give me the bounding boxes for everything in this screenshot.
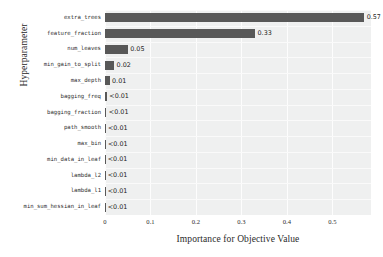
- horizontal-gridline: [105, 136, 371, 137]
- horizontal-gridline: [105, 199, 371, 200]
- y-axis-tick-label: max_depth: [0, 78, 101, 84]
- horizontal-gridline: [105, 57, 371, 58]
- bar: [105, 61, 114, 70]
- y-axis-tick-label: min_gain_to_split: [0, 62, 101, 68]
- horizontal-gridline: [105, 42, 371, 43]
- y-axis-tick-label: num_leaves: [0, 46, 101, 52]
- y-axis-tick-label: bagging_freq: [0, 94, 101, 100]
- horizontal-gridline: [105, 120, 371, 121]
- y-axis-tick-label: lambda_l1: [0, 188, 101, 194]
- horizontal-gridline: [105, 10, 371, 11]
- y-axis-tick-label: bagging_fraction: [0, 110, 101, 116]
- bar: [105, 29, 255, 38]
- horizontal-gridline: [105, 152, 371, 153]
- horizontal-gridline: [105, 89, 371, 90]
- y-axis-tick-label: extra_trees: [0, 15, 101, 21]
- y-axis-tick-label: max_bin: [0, 141, 101, 147]
- bar: [105, 92, 107, 101]
- hyperparameter-importance-chart: Hyperparameter extra_treesfeature_fracti…: [0, 0, 383, 257]
- x-axis-tick-label: 0: [103, 218, 106, 225]
- horizontal-gridline: [105, 105, 371, 106]
- horizontal-gridline: [105, 168, 371, 169]
- x-axis-title: Importance for Objective Value: [105, 234, 371, 244]
- bar: [105, 13, 364, 22]
- y-axis-tick-label: feature_fraction: [0, 31, 101, 37]
- y-axis-tick-label: path_smooth: [0, 125, 101, 131]
- bar: [105, 45, 128, 54]
- x-axis-tick-label: 0.5: [328, 218, 336, 225]
- horizontal-gridline: [105, 73, 371, 74]
- y-axis-title: Hyperparameter: [19, 0, 29, 125]
- plot-area: [105, 10, 371, 215]
- y-axis-tick-label: min_data_in_leaf: [0, 157, 101, 163]
- x-axis-tick-label: 0.4: [283, 218, 291, 225]
- horizontal-gridline: [105, 26, 371, 27]
- horizontal-gridline: [105, 183, 371, 184]
- x-axis-tick-label: 0.2: [192, 218, 200, 225]
- x-axis-tick-label: 0.1: [146, 218, 154, 225]
- y-axis-tick-label: min_sum_hessian_in_leaf: [0, 204, 101, 210]
- x-axis-tick-label: 0.3: [237, 218, 245, 225]
- bar: [105, 108, 106, 117]
- x-axis-tick-labels: 00.10.20.30.40.5: [105, 216, 371, 232]
- bar: [105, 76, 110, 85]
- y-axis-tick-label: lambda_l2: [0, 173, 101, 179]
